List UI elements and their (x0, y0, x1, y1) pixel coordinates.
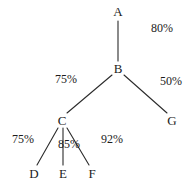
edge-label-c-e: 85% (58, 138, 80, 150)
node-e: E (59, 167, 67, 180)
edge-label-c-d: 75% (12, 133, 34, 145)
node-a: A (113, 5, 122, 18)
edge-label-c-f: 92% (101, 133, 123, 145)
edge-label-a-b: 80% (151, 22, 173, 34)
node-d: D (29, 167, 38, 180)
edge-c-d (37, 128, 58, 165)
tree-diagram: ABCDEFG 80%75%50%75%85%92% (0, 0, 193, 189)
node-c: C (58, 114, 67, 127)
edge-label-b-c: 75% (55, 73, 77, 85)
node-g: G (167, 114, 176, 127)
edge-label-b-g: 50% (160, 75, 182, 87)
node-b: B (114, 62, 123, 75)
node-f: F (88, 167, 95, 180)
